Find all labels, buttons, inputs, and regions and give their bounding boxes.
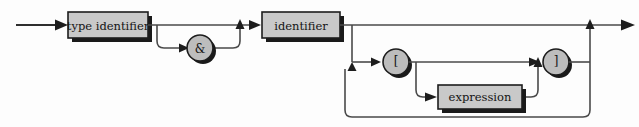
rail-ampersand-branch-up [213, 28, 240, 48]
ampersand-return-arrow-icon [236, 19, 245, 29]
bracket-rejoin-arrow-icon [586, 19, 595, 29]
identifier-entry-arrow-icon [249, 20, 261, 30]
bracket-row-merge-arrow-icon [348, 62, 357, 71]
syntax-diagram: type identifier & identifier [ [0, 0, 639, 127]
rail-ampersand-branch-down [157, 25, 180, 48]
expression-entry-arrow-icon [425, 93, 437, 102]
expression-label: expression [449, 90, 512, 104]
ampersand-label: & [195, 42, 206, 56]
railroad-diagram-canvas: type identifier & identifier [ [0, 0, 639, 127]
exit-arrow-icon [621, 20, 635, 31]
rail-expression-branch-down [416, 62, 426, 97]
identifier-label: identifier [274, 19, 328, 33]
close-bracket-label: ] [554, 54, 559, 68]
type-identifier-label: type identifier [67, 19, 150, 33]
open-bracket-label: [ [394, 54, 399, 68]
open-bracket-entry-arrow-icon [371, 58, 381, 67]
